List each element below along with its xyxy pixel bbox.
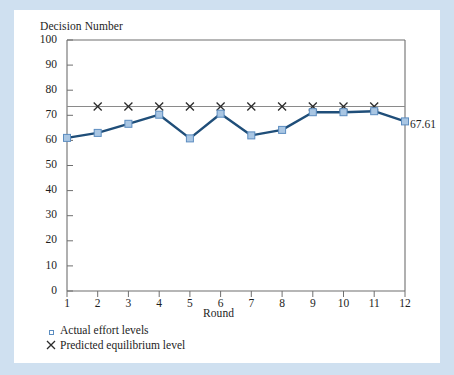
x-marker-icon xyxy=(42,336,60,354)
x-tick-label-8: 8 xyxy=(271,297,293,309)
y-tick-label-60: 60 xyxy=(31,133,57,145)
y-tick-label-90: 90 xyxy=(31,58,57,70)
y-tick-label-50: 50 xyxy=(31,158,57,170)
y-axis-title: Decision Number xyxy=(40,20,123,32)
y-tick-label-100: 100 xyxy=(31,33,57,45)
line-chart: Decision Number Round 100 90 80 70 60 50… xyxy=(14,10,440,363)
x-tick-label-10: 10 xyxy=(333,297,355,309)
series-predicted-equilibrium-level xyxy=(67,103,405,111)
x-tick-label-2: 2 xyxy=(87,297,109,309)
final-value-annotation: 67.61 xyxy=(410,118,436,130)
legend-label-actual-effort-levels: Actual effort levels xyxy=(60,324,149,336)
x-tick-label-4: 4 xyxy=(148,297,170,309)
x-tick-label-9: 9 xyxy=(302,297,324,309)
y-tick-label-20: 20 xyxy=(31,233,57,245)
x-tick-label-6: 6 xyxy=(210,297,232,309)
x-tick-label-7: 7 xyxy=(240,297,262,309)
y-tick-label-40: 40 xyxy=(31,183,57,195)
x-tick-label-1: 1 xyxy=(56,297,78,309)
y-tick-label-30: 30 xyxy=(31,208,57,220)
y-axis-ticks xyxy=(67,40,73,291)
chart-legend: Actual effort levels Predicted equilibri… xyxy=(42,322,185,352)
figure-outer-frame: Decision Number Round 100 90 80 70 60 50… xyxy=(0,0,454,375)
x-tick-label-5: 5 xyxy=(179,297,201,309)
legend-label-predicted-equilibrium-level: Predicted equilibrium level xyxy=(60,339,185,351)
y-tick-label-80: 80 xyxy=(31,83,57,95)
x-tick-label-12: 12 xyxy=(394,297,416,309)
legend-item-actual-effort-levels: Actual effort levels xyxy=(42,322,185,337)
y-tick-label-70: 70 xyxy=(31,108,57,120)
x-tick-label-3: 3 xyxy=(117,297,139,309)
legend-item-predicted-equilibrium-level: Predicted equilibrium level xyxy=(42,337,185,352)
y-tick-label-0: 0 xyxy=(31,284,57,296)
x-tick-label-11: 11 xyxy=(363,297,385,309)
figure-card: Decision Number Round 100 90 80 70 60 50… xyxy=(14,10,440,363)
y-tick-label-10: 10 xyxy=(31,259,57,271)
plot-frame xyxy=(67,40,405,291)
series-actual-effort-levels xyxy=(64,108,409,142)
